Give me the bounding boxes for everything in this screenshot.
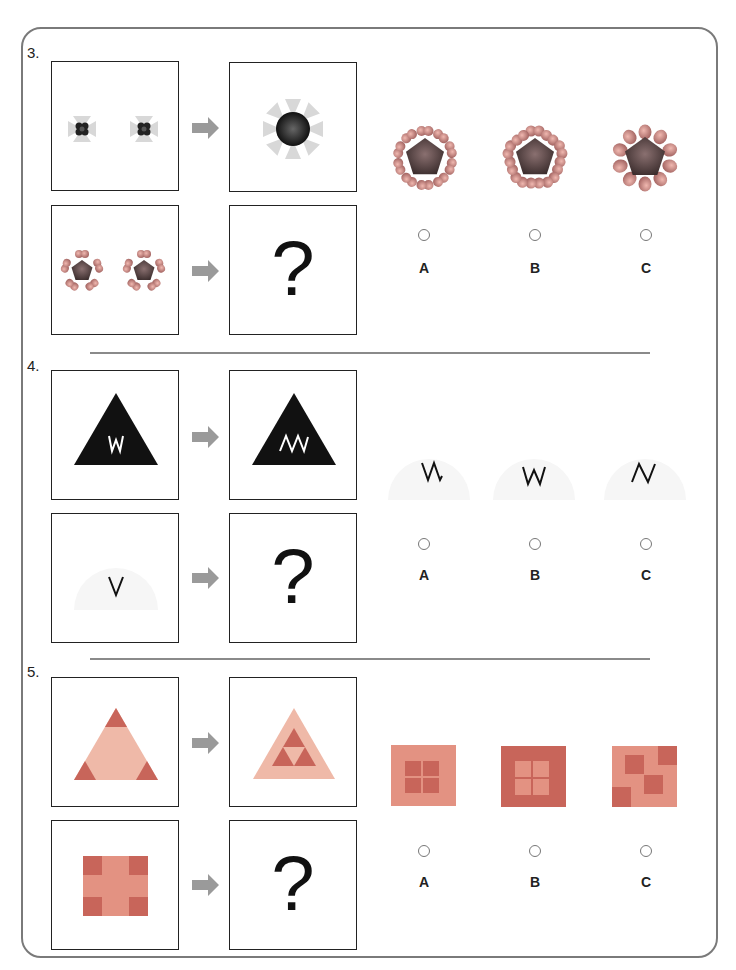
option-b-radio[interactable]: [529, 845, 541, 857]
question-mark: ?: [230, 536, 356, 616]
option-a-radio[interactable]: [418, 845, 430, 857]
circle-burst-figure: [230, 63, 358, 193]
example-left-box: [51, 677, 179, 807]
triforce-figure: [230, 678, 358, 808]
black-triangle-figure: [230, 371, 358, 501]
arrow-right-icon: [192, 260, 220, 282]
option-c-figure[interactable]: [602, 432, 688, 502]
question-mark: ?: [230, 228, 356, 308]
answer-box: ?: [229, 820, 357, 950]
example-right-box: [229, 370, 357, 500]
triangle-corners-figure: [52, 678, 180, 808]
arrow-right-icon: [192, 732, 220, 754]
option-c-radio[interactable]: [640, 845, 652, 857]
option-a-label: A: [414, 567, 434, 583]
option-b-figure[interactable]: [491, 432, 577, 502]
arrow-right-icon: [192, 426, 220, 448]
option-b-radio[interactable]: [529, 538, 541, 550]
question-mark: ?: [230, 843, 356, 923]
option-b-figure[interactable]: [495, 118, 575, 198]
option-a-figure[interactable]: [386, 432, 472, 502]
square-corners-figure: [52, 821, 180, 951]
answer-box: ?: [229, 513, 357, 643]
option-c-label: C: [636, 567, 656, 583]
example-left-box: [51, 370, 179, 500]
option-c-label: C: [636, 260, 656, 276]
option-c-radio[interactable]: [640, 538, 652, 550]
question-number: 5.: [27, 663, 40, 680]
option-a-label: A: [414, 260, 434, 276]
option-b-radio[interactable]: [529, 229, 541, 241]
bowtie-burst-figure: [52, 62, 180, 192]
option-c-label: C: [636, 874, 656, 890]
pentagon-hearts-figure: [52, 206, 180, 336]
example-right-box: [229, 62, 357, 192]
option-c-figure[interactable]: [612, 746, 678, 808]
query-left-box: [51, 513, 179, 643]
semicircle-figure: [52, 514, 180, 644]
option-c-radio[interactable]: [640, 229, 652, 241]
option-b-label: B: [525, 260, 545, 276]
black-triangle-figure: [52, 371, 180, 501]
arrow-right-icon: [192, 874, 220, 896]
option-c-figure[interactable]: [605, 118, 685, 198]
arrow-right-icon: [192, 117, 220, 139]
option-a-label: A: [414, 874, 434, 890]
answer-box: ?: [229, 205, 357, 335]
option-b-label: B: [525, 567, 545, 583]
option-a-radio[interactable]: [418, 229, 430, 241]
arrow-right-icon: [192, 567, 220, 589]
option-a-figure[interactable]: [385, 118, 465, 198]
section-divider: [90, 352, 650, 354]
query-left-box: [51, 820, 179, 950]
option-a-figure[interactable]: [391, 745, 457, 807]
example-left-box: [51, 61, 179, 191]
question-number: 3.: [27, 44, 40, 61]
option-b-label: B: [525, 874, 545, 890]
option-b-figure[interactable]: [501, 746, 567, 808]
example-right-box: [229, 677, 357, 807]
question-number: 4.: [27, 357, 40, 374]
option-a-radio[interactable]: [418, 538, 430, 550]
query-left-box: [51, 205, 179, 335]
section-divider: [90, 658, 650, 660]
